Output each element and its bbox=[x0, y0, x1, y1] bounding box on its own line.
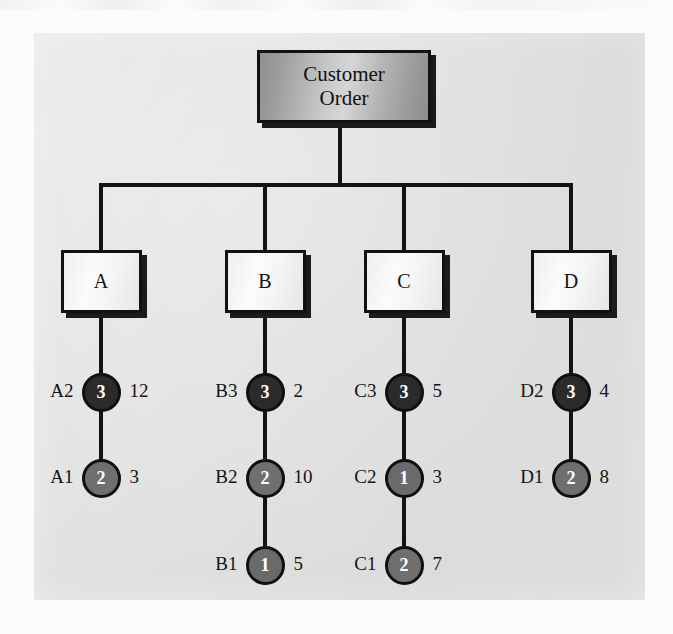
component-id-label-c2: C2 bbox=[329, 466, 377, 488]
component-qty-label-d1: 8 bbox=[600, 466, 610, 488]
component-circle-c2[interactable]: 1 bbox=[385, 459, 424, 498]
component-level-value: 2 bbox=[567, 468, 576, 489]
child-node-label: B bbox=[258, 270, 271, 293]
root-node-label: Customer Order bbox=[303, 63, 385, 110]
child-node-a[interactable]: A bbox=[61, 250, 142, 313]
component-level-value: 2 bbox=[97, 468, 106, 489]
child-node-b[interactable]: B bbox=[225, 250, 306, 313]
connector-drop-a bbox=[99, 183, 103, 253]
component-level-value: 1 bbox=[261, 555, 270, 576]
child-node-label: D bbox=[564, 270, 578, 293]
component-circle-d2[interactable]: 3 bbox=[552, 373, 591, 412]
component-id-label-c3: C3 bbox=[329, 380, 377, 402]
figure-root: Customer Order A3A2122A13B3B322B2101B15C… bbox=[0, 0, 673, 634]
component-circle-d1[interactable]: 2 bbox=[552, 459, 591, 498]
root-node-label-line1: Customer bbox=[303, 63, 385, 87]
component-level-value: 1 bbox=[400, 468, 409, 489]
component-level-value: 2 bbox=[400, 555, 409, 576]
component-level-value: 2 bbox=[261, 468, 270, 489]
component-qty-label-b2: 10 bbox=[294, 466, 313, 488]
component-qty-label-a1: 3 bbox=[130, 466, 140, 488]
root-node-label-line2: Order bbox=[303, 87, 385, 111]
child-node-label: A bbox=[94, 270, 108, 293]
component-circle-b1[interactable]: 1 bbox=[246, 546, 285, 585]
component-qty-label-c3: 5 bbox=[433, 380, 443, 402]
connector-spine-b bbox=[263, 311, 267, 565]
component-qty-label-c2: 3 bbox=[433, 466, 443, 488]
scan-noise-artifact bbox=[0, 0, 673, 10]
child-node-d[interactable]: D bbox=[531, 250, 612, 313]
component-level-value: 3 bbox=[567, 382, 576, 403]
component-circle-a2[interactable]: 3 bbox=[82, 373, 121, 412]
child-node-label: C bbox=[397, 270, 410, 293]
root-node-customer-order[interactable]: Customer Order bbox=[257, 50, 431, 123]
component-circle-c1[interactable]: 2 bbox=[385, 546, 424, 585]
component-id-label-c1: C1 bbox=[329, 553, 377, 575]
connector-horizontal-bus bbox=[99, 183, 573, 187]
component-qty-label-d2: 4 bbox=[600, 380, 610, 402]
component-id-label-b3: B3 bbox=[190, 380, 238, 402]
component-id-label-d2: D2 bbox=[496, 380, 544, 402]
component-circle-c3[interactable]: 3 bbox=[385, 373, 424, 412]
component-level-value: 3 bbox=[97, 382, 106, 403]
component-qty-label-a2: 12 bbox=[130, 380, 149, 402]
component-qty-label-c1: 7 bbox=[433, 553, 443, 575]
connector-drop-c bbox=[402, 183, 406, 253]
component-id-label-b2: B2 bbox=[190, 466, 238, 488]
component-id-label-d1: D1 bbox=[496, 466, 544, 488]
connector-root-stem bbox=[338, 123, 342, 186]
component-circle-a1[interactable]: 2 bbox=[82, 459, 121, 498]
component-circle-b2[interactable]: 2 bbox=[246, 459, 285, 498]
child-node-c[interactable]: C bbox=[364, 250, 445, 313]
connector-drop-d bbox=[569, 183, 573, 253]
connector-spine-c bbox=[402, 311, 406, 565]
component-level-value: 3 bbox=[261, 382, 270, 403]
diagram-panel: Customer Order A3A2122A13B3B322B2101B15C… bbox=[34, 33, 645, 600]
component-level-value: 3 bbox=[400, 382, 409, 403]
component-qty-label-b3: 2 bbox=[294, 380, 304, 402]
component-qty-label-b1: 5 bbox=[294, 553, 304, 575]
component-circle-b3[interactable]: 3 bbox=[246, 373, 285, 412]
component-id-label-b1: B1 bbox=[190, 553, 238, 575]
connector-drop-b bbox=[263, 183, 267, 253]
component-id-label-a1: A1 bbox=[26, 466, 74, 488]
component-id-label-a2: A2 bbox=[26, 380, 74, 402]
